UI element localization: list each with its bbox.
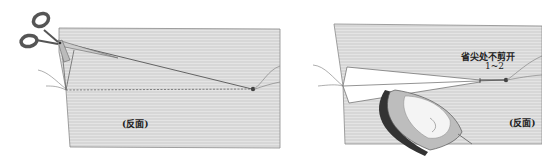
- wrong-side-label-left: (反面): [122, 117, 149, 130]
- panel-cut-dart: [20, 11, 280, 148]
- thread-icon: [318, 85, 343, 86]
- wrong-side-label-right: (反面): [509, 116, 536, 129]
- panel-press-dart: [313, 24, 542, 156]
- measurement-label: 1~2: [485, 61, 504, 71]
- thread-icon: [313, 65, 343, 86]
- diagram-canvas: [0, 0, 542, 165]
